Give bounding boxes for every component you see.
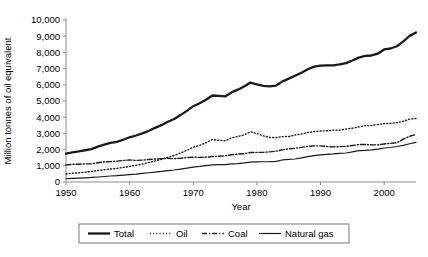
- y-tick-label: 9,000: [36, 31, 60, 42]
- chart-canvas: 01,0002,0003,0004,0005,0006,0007,0008,00…: [0, 0, 428, 257]
- chart-legend: TotalOilCoalNatural gas: [79, 224, 349, 243]
- y-tick-label: 3,000: [36, 128, 60, 139]
- x-tick-label: 1950: [55, 187, 76, 198]
- energy-consumption-chart: 01,0002,0003,0004,0005,0006,0007,0008,00…: [0, 0, 428, 257]
- series-line-oil: [66, 119, 416, 174]
- y-tick-label: 6,000: [36, 79, 60, 90]
- x-tick-label: 1970: [183, 187, 204, 198]
- x-axis-title: Year: [231, 201, 250, 212]
- x-tick-label: 2000: [374, 187, 395, 198]
- y-tick-label: 4,000: [36, 112, 60, 123]
- y-tick-label: 5,000: [36, 95, 60, 106]
- series-lines: [66, 32, 416, 178]
- y-tick-label: 8,000: [36, 47, 60, 58]
- x-tick-label: 1990: [310, 187, 331, 198]
- legend-label-coal: Coal: [228, 228, 248, 239]
- x-axis: 195019601970198019902000: [55, 182, 416, 198]
- y-tick-label: 1,000: [36, 160, 60, 171]
- y-tick-label: 10,000: [31, 14, 60, 25]
- y-tick-label: 0: [55, 176, 60, 187]
- x-tick-label: 1980: [246, 187, 267, 198]
- x-tick-label: 1960: [119, 187, 140, 198]
- legend-label-natural-gas: Natural gas: [285, 228, 334, 239]
- y-tick-label: 2,000: [36, 144, 60, 155]
- legend-label-total: Total: [114, 228, 134, 239]
- series-line-total: [66, 32, 416, 153]
- legend-label-oil: Oil: [176, 228, 188, 239]
- y-axis-title: Million tonnes of oil equivalent: [2, 37, 13, 164]
- y-axis: 01,0002,0003,0004,0005,0006,0007,0008,00…: [31, 14, 66, 187]
- series-line-coal: [66, 135, 416, 165]
- y-tick-label: 7,000: [36, 63, 60, 74]
